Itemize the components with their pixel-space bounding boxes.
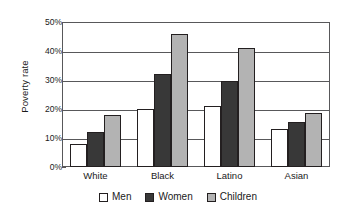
- x-label-black: Black: [129, 170, 196, 182]
- x-label-latino: Latino: [196, 170, 263, 182]
- bars-layer: [62, 22, 330, 167]
- bar-black-women: [154, 74, 171, 167]
- bar-white-women: [87, 132, 104, 167]
- bar-group-asian: [263, 22, 330, 167]
- legend-label-men: Men: [112, 192, 131, 202]
- bar-latino-men: [204, 106, 221, 167]
- bar-asian-women: [288, 122, 305, 167]
- bar-latino-children: [238, 48, 255, 167]
- x-axis-labels: WhiteBlackLatinoAsian: [62, 170, 330, 186]
- y-tick-label-20: 20%: [36, 105, 62, 114]
- chart-legend: MenWomenChildren: [0, 192, 356, 202]
- y-tick-label-30: 30%: [36, 76, 62, 85]
- legend-item-women: Women: [145, 192, 192, 202]
- legend-swatch-women-icon: [145, 193, 154, 202]
- legend-label-children: Children: [220, 192, 257, 202]
- y-tick-label-40: 40%: [36, 47, 62, 56]
- bar-asian-men: [271, 129, 288, 167]
- y-tick-label-10: 10%: [36, 134, 62, 143]
- bar-group-latino: [196, 22, 263, 167]
- x-label-asian: Asian: [263, 170, 330, 182]
- bar-black-men: [137, 109, 154, 167]
- bar-black-children: [171, 34, 188, 167]
- bar-latino-women: [221, 81, 238, 167]
- legend-swatch-children-icon: [207, 193, 216, 202]
- bar-white-children: [104, 115, 121, 167]
- legend-label-women: Women: [158, 192, 192, 202]
- poverty-rate-bar-chart: Poverty rate 50%40%30%20%10%0% WhiteBlac…: [0, 0, 356, 217]
- y-tick-label-50: 50%: [36, 18, 62, 27]
- legend-item-men: Men: [99, 192, 131, 202]
- y-tick-mark-0: [62, 167, 66, 168]
- y-axis-ticks: 50%40%30%20%10%0%: [28, 0, 62, 217]
- y-tick-label-0: 0%: [36, 163, 62, 172]
- legend-item-children: Children: [207, 192, 257, 202]
- legend-swatch-men-icon: [99, 193, 108, 202]
- x-label-white: White: [62, 170, 129, 182]
- bar-asian-children: [305, 113, 322, 167]
- bar-group-black: [129, 22, 196, 167]
- bar-group-white: [62, 22, 129, 167]
- bar-white-men: [70, 144, 87, 167]
